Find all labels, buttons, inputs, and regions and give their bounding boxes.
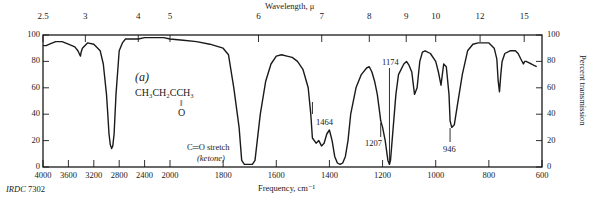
x-tick-3200: 3200 (85, 170, 102, 180)
y-tick-right-40: 40 (547, 108, 556, 118)
x-tick-1200: 1200 (374, 170, 391, 180)
peak-label-1207: 1207 (365, 138, 382, 148)
y-tick-left-80: 80 (16, 55, 40, 65)
y-tick-right-80: 80 (547, 55, 556, 65)
irdc-number: 7302 (28, 184, 45, 194)
wavelength-tick-12: 12 (476, 11, 485, 21)
x-tick-2800: 2800 (111, 170, 128, 180)
y-tick-right-100: 100 (547, 29, 560, 39)
y-tick-left-20: 20 (16, 135, 40, 145)
bottom-axis-title: Frequency, cm⁻¹ (258, 183, 315, 193)
x-tick-1400: 1400 (321, 170, 338, 180)
irdc-prefix: IRDC (6, 184, 26, 194)
peak-label-1464: 1464 (316, 117, 333, 127)
wavelength-tick-15: 15 (520, 11, 529, 21)
spectrum-line (43, 38, 537, 165)
right-axis-title: Percent transmission (578, 55, 588, 126)
wavelength-tick-4: 4 (136, 11, 141, 21)
ketone-label: (ketone) (197, 153, 225, 163)
y-tick-left-40: 40 (16, 108, 40, 118)
wavelength-tick-7: 7 (319, 11, 324, 21)
wavelength-tick-6: 6 (256, 11, 261, 21)
wavelength-tick-3: 3 (83, 11, 88, 21)
x-tick-4000: 4000 (35, 170, 52, 180)
wavelength-tick-2.5: 2.5 (37, 11, 48, 21)
co-stretch-label: C═O stretch (187, 142, 230, 152)
carbonyl-oxygen: O (178, 107, 185, 118)
wavelength-tick-10: 10 (431, 11, 440, 21)
y-tick-right-20: 20 (547, 135, 556, 145)
peak-label-946: 946 (443, 144, 456, 154)
x-tick-1000: 1000 (427, 170, 444, 180)
wavelength-tick-5: 5 (168, 11, 173, 21)
wavelength-tick-8: 8 (367, 11, 372, 21)
x-tick-1600: 1600 (268, 170, 285, 180)
wavelength-tick-9: 9 (404, 11, 409, 21)
x-tick-2000: 2000 (162, 170, 179, 180)
x-tick-600: 600 (536, 170, 549, 180)
peak-label-1174: 1174 (382, 57, 399, 67)
x-tick-1800: 1800 (215, 170, 232, 180)
x-tick-800: 800 (482, 170, 495, 180)
irdc-label: IRDC 7302 (6, 184, 45, 194)
molecule-formula: CH₃CH₂CCH₃ (135, 87, 194, 98)
x-tick-3600: 3600 (60, 170, 77, 180)
panel-label: (a) (135, 70, 149, 85)
y-tick-left-60: 60 (16, 82, 40, 92)
top-axis-title: Wavelength, μ (265, 1, 314, 11)
y-tick-left-100: 100 (16, 29, 40, 39)
x-tick-2400: 2400 (136, 170, 153, 180)
y-tick-right-60: 60 (547, 82, 556, 92)
